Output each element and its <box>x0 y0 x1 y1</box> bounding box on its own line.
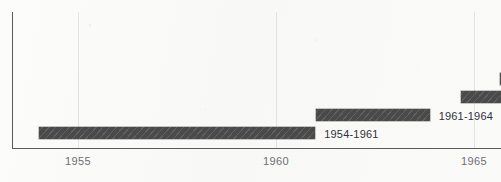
plot-area: 1961-1964 1954-1961 1955 1960 1965 <box>0 0 501 182</box>
bar-label-1961-1964: 1961-1964 <box>439 110 493 122</box>
bar-label-1954-1961: 1954-1961 <box>324 128 378 140</box>
x-tick-label-1960: 1960 <box>263 155 289 167</box>
x-tick-label-1965: 1965 <box>461 155 487 167</box>
timeline-chart-figure: 1961-1964 1954-1961 1955 1960 1965 <box>0 0 501 182</box>
bar-row-4 <box>39 127 315 139</box>
bar-row-3 <box>316 109 430 121</box>
gridline-1965 <box>474 12 475 148</box>
bar-row-2 <box>461 91 501 103</box>
x-axis-line <box>12 148 501 149</box>
y-axis-line <box>12 12 13 149</box>
x-tick-label-1955: 1955 <box>65 155 91 167</box>
